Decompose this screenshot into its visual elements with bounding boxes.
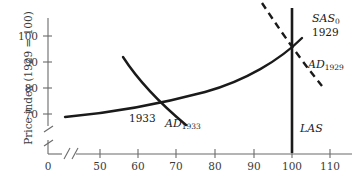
ad-1929-label-text: AD (308, 58, 325, 71)
ad-1933-curve-label: AD1933 (165, 117, 201, 130)
y-tick-label-80: 80 (12, 82, 38, 94)
equilibrium-1933-year-label: 1933 (129, 112, 156, 124)
y-tick-label-100: 100 (12, 30, 38, 42)
x-tick-label-70: 70 (161, 160, 191, 172)
y-axis-title: Price index (1929 = 100) (22, 3, 34, 153)
y-axis-break-mark-upper (44, 126, 53, 132)
x-tick-label-90: 90 (239, 160, 269, 172)
x-tick-label-0: 0 (33, 160, 63, 172)
ad-1933-label-sub: 1933 (182, 122, 201, 131)
ad-1933-label-text: AD (165, 117, 182, 130)
chart-plot-area (0, 0, 360, 182)
x-axis-break-mark-left (64, 148, 70, 159)
x-tick-label-60: 60 (123, 160, 153, 172)
x-tick-label-110: 110 (315, 160, 345, 172)
x-tick-label-50: 50 (85, 160, 115, 172)
sas-curve-label-text: SAS (312, 12, 335, 25)
sas-curve (65, 38, 302, 117)
ad-1929-curve-label: AD1929 (308, 58, 344, 71)
sas-curve-label: SAS0 (312, 12, 340, 25)
y-tick-label-90: 90 (12, 56, 38, 68)
x-tick-label-100: 100 (277, 160, 307, 172)
las-curve-label: LAS (300, 122, 323, 135)
ad-1929-label-sub: 1929 (325, 63, 344, 72)
x-tick-label-80: 80 (200, 160, 230, 172)
economics-ad-as-chart: Price index (1929 = 100) 100 90 80 70 0 … (0, 0, 360, 182)
sas-curve-label-sub: 0 (335, 17, 340, 26)
y-tick-label-70: 70 (12, 108, 38, 120)
sas-curve-year-label: 1929 (312, 26, 339, 38)
